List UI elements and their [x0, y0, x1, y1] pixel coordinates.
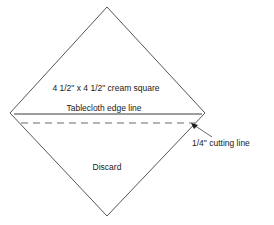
label-discard: Discard — [93, 163, 122, 172]
cutting-line-leader — [194, 125, 212, 137]
label-cutting-line: 1/4" cutting line — [192, 139, 250, 148]
label-tablecloth-edge-line: Tablecloth edge line — [66, 104, 141, 113]
label-cream-square: 4 1/2" x 4 1/2" cream square — [52, 84, 159, 93]
diagram-canvas: 4 1/2" x 4 1/2" cream square Tablecloth … — [0, 0, 274, 225]
